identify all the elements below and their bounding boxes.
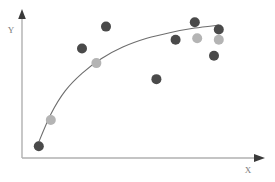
plot-canvas: Y X	[0, 0, 275, 182]
data-point	[190, 17, 200, 27]
data-point	[214, 25, 224, 35]
trend-curve	[36, 25, 218, 148]
data-point	[101, 22, 111, 32]
data-points-layer	[34, 17, 224, 151]
data-point	[151, 74, 161, 84]
series-1	[46, 33, 224, 125]
scatter-plot-figure: Y X	[0, 0, 275, 182]
axis-labels-group: Y X	[8, 25, 252, 175]
data-point	[46, 115, 56, 125]
y-axis-arrow-icon	[18, 9, 26, 19]
axes-group	[18, 9, 265, 162]
y-axis-label: Y	[8, 25, 15, 35]
data-point	[214, 35, 224, 45]
x-axis-label: X	[245, 165, 252, 175]
data-point	[209, 51, 219, 61]
data-point	[192, 33, 202, 43]
x-axis-arrow-icon	[254, 154, 265, 162]
data-point	[34, 141, 44, 151]
data-point	[171, 35, 181, 45]
data-point	[91, 58, 101, 68]
data-point	[77, 44, 87, 54]
